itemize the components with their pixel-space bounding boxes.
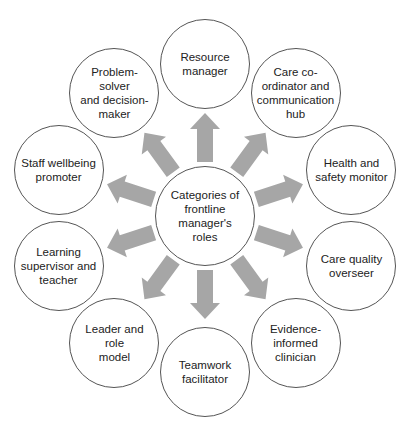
role-label: Resource manager bbox=[174, 50, 235, 78]
role-label: Teamwork facilitator bbox=[173, 358, 237, 386]
center-node: Categories of frontline manager's roles bbox=[155, 166, 255, 266]
role-label: Care co- ordinator and communication hub bbox=[251, 65, 340, 121]
role-node-evidence-informed-clinician: Evidence- informed clinician bbox=[251, 298, 341, 388]
arrow-leader-role-model bbox=[132, 251, 185, 308]
arrow-evidence-informed-clinician bbox=[225, 251, 278, 308]
role-label: Care quality overseer bbox=[315, 252, 388, 280]
role-label: Leader and role model bbox=[70, 322, 158, 364]
arrow-staff-wellbeing-promoter bbox=[102, 170, 158, 214]
arrow-care-quality-overseer bbox=[252, 218, 308, 262]
center-label: Categories of frontline manager's roles bbox=[165, 188, 245, 244]
arrow-health-safety-monitor bbox=[252, 170, 308, 214]
role-node-learning-supervisor-teacher: Learning supervisor and teacher bbox=[14, 221, 104, 311]
role-node-staff-wellbeing-promoter: Staff wellbeing promoter bbox=[14, 125, 104, 215]
arrow-problem-solver-decision-maker bbox=[132, 124, 185, 181]
role-node-teamwork-facilitator: Teamwork facilitator bbox=[160, 327, 250, 417]
role-node-leader-role-model: Leader and role model bbox=[69, 298, 159, 388]
arrow-learning-supervisor-teacher bbox=[102, 218, 158, 262]
roles-diagram: Categories of frontline manager's roles … bbox=[0, 0, 407, 432]
arrow-resource-manager bbox=[190, 113, 220, 162]
role-node-care-coordinator: Care co- ordinator and communication hub bbox=[251, 48, 341, 138]
role-label: Learning supervisor and teacher bbox=[15, 245, 102, 287]
role-node-resource-manager: Resource manager bbox=[160, 19, 250, 109]
role-label: Evidence- informed clinician bbox=[264, 322, 327, 364]
role-label: Health and safety monitor bbox=[309, 156, 393, 184]
role-label: Staff wellbeing promoter bbox=[15, 156, 102, 184]
arrow-care-coordinator bbox=[225, 124, 278, 181]
role-node-care-quality-overseer: Care quality overseer bbox=[306, 221, 396, 311]
role-label: Problem-solver and decision- maker bbox=[70, 65, 158, 121]
arrow-teamwork-facilitator bbox=[190, 270, 220, 319]
